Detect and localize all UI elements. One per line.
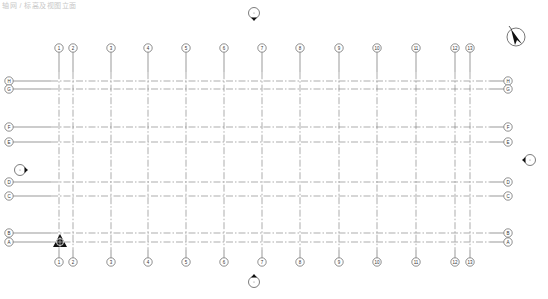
grid-bubble-9[interactable]: 9	[335, 258, 343, 266]
grid-bubble-2[interactable]: 2	[69, 258, 77, 266]
grid-bubble-F[interactable]: F	[5, 123, 13, 131]
grid-bubble-D[interactable]: D	[504, 178, 512, 186]
elevation-marker-north-icon[interactable]	[249, 8, 260, 22]
grid-bubble-5[interactable]: 5	[182, 258, 190, 266]
grid-bubble-13[interactable]: 13	[466, 44, 474, 52]
grid-bubble-3[interactable]: 3	[107, 258, 115, 266]
grid-label: 10	[374, 46, 380, 51]
grid-row-A[interactable]: AA	[5, 238, 512, 246]
grid-bubble-C[interactable]: C	[504, 192, 512, 200]
grid-label: B	[7, 231, 10, 236]
grid-bubble-H[interactable]: H	[5, 77, 13, 85]
grid-bubble-10[interactable]: 10	[373, 44, 381, 52]
grid-bubble-8[interactable]: 8	[296, 44, 304, 52]
grid-bubble-1[interactable]: 1	[55, 44, 63, 52]
grid-label: G	[506, 87, 510, 92]
survey-point-icon[interactable]	[53, 234, 67, 247]
grid-bubble-6[interactable]: 6	[220, 44, 228, 52]
grid-bubble-A[interactable]: A	[504, 238, 512, 246]
grid-row-H[interactable]: HH	[5, 77, 512, 85]
grid-bubble-6[interactable]: 6	[220, 258, 228, 266]
grid-bubble-8[interactable]: 8	[296, 258, 304, 266]
grid-bubble-7[interactable]: 7	[258, 44, 266, 52]
grid-row-G[interactable]: GG	[5, 85, 512, 93]
grid-row-B[interactable]: BB	[5, 229, 512, 237]
grid-bubble-2[interactable]: 2	[69, 44, 77, 52]
grid-bubble-12[interactable]: 12	[451, 44, 459, 52]
grid-bubble-4[interactable]: 4	[144, 258, 152, 266]
grid-bubble-H[interactable]: H	[504, 77, 512, 85]
grid-label: A	[7, 240, 10, 245]
grid-bubble-E[interactable]: E	[5, 138, 13, 146]
grid-bubble-B[interactable]: B	[504, 229, 512, 237]
grid-label: 12	[452, 46, 458, 51]
grid-label: H	[7, 79, 10, 84]
grid-label: E	[7, 140, 10, 145]
elevation-marker-west-icon[interactable]	[15, 165, 29, 176]
grid-label: B	[506, 231, 509, 236]
grid-bubble-11[interactable]: 11	[412, 258, 420, 266]
grid-bubble-10[interactable]: 10	[373, 258, 381, 266]
north-arrow-icon	[507, 26, 525, 46]
grid-label: A	[506, 240, 509, 245]
grid-bubble-G[interactable]: G	[504, 85, 512, 93]
elevation-marker-east-icon[interactable]	[522, 155, 536, 166]
grid-bubble-E[interactable]: E	[504, 138, 512, 146]
grid-label: 11	[414, 260, 419, 265]
grid-label: E	[506, 140, 509, 145]
grid-label: 10	[374, 260, 380, 265]
grid-bubble-4[interactable]: 4	[144, 44, 152, 52]
grid-row-E[interactable]: EE	[5, 138, 512, 146]
grid-label: F	[8, 125, 11, 130]
grid-plan-canvas[interactable]: 1122334455667788991010111112121313HHGGFF…	[0, 0, 548, 299]
elevation-marker-south-icon[interactable]	[249, 274, 260, 288]
grid-bubble-B[interactable]: B	[5, 229, 13, 237]
grid-bubble-11[interactable]: 11	[412, 44, 420, 52]
grid-label: 12	[452, 260, 458, 265]
grid-row-F[interactable]: FF	[5, 123, 512, 131]
grid-row-D[interactable]: DD	[5, 178, 512, 186]
grid-bubble-1[interactable]: 1	[55, 258, 63, 266]
grid-label: 13	[467, 46, 473, 51]
grid-label: 13	[467, 260, 473, 265]
grid-bubble-3[interactable]: 3	[107, 44, 115, 52]
grid-label: 11	[414, 46, 419, 51]
grid-bubble-D[interactable]: D	[5, 178, 13, 186]
grid-bubble-F[interactable]: F	[504, 123, 512, 131]
grid-label: F	[507, 125, 510, 130]
grid-bubble-7[interactable]: 7	[258, 258, 266, 266]
grid-bubble-9[interactable]: 9	[335, 44, 343, 52]
grid-bubble-G[interactable]: G	[5, 85, 13, 93]
grid-bubble-5[interactable]: 5	[182, 44, 190, 52]
grid-label: G	[7, 87, 11, 92]
grid-row-C[interactable]: CC	[5, 192, 512, 200]
grid-bubble-C[interactable]: C	[5, 192, 13, 200]
grid-bubble-13[interactable]: 13	[466, 258, 474, 266]
grid-bubble-A[interactable]: A	[5, 238, 13, 246]
grid-label: H	[506, 79, 509, 84]
grid-bubble-12[interactable]: 12	[451, 258, 459, 266]
